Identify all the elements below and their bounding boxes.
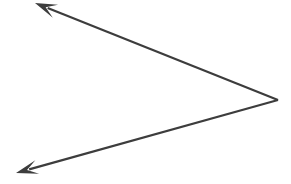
angle-diagram <box>0 0 291 184</box>
angle-svg <box>0 0 291 184</box>
diagram-background <box>0 0 291 184</box>
